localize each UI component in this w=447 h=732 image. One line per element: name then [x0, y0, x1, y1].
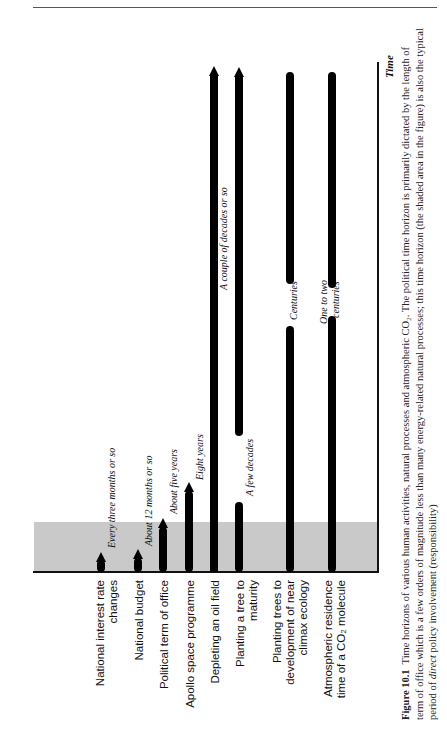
label-apollo: Apollo space programme: [184, 580, 197, 710]
annotation-apollo: Eight years: [194, 434, 205, 480]
label-interest-rate: National interest rate changes: [94, 580, 120, 710]
bar-political-term: [159, 527, 167, 572]
annotation-climax: Centuries: [288, 281, 299, 320]
shaded-political-horizon: [34, 522, 377, 572]
annotation-co2-line2: centuries: [330, 281, 341, 318]
annotation-oil: A couple of decades or so: [218, 187, 229, 290]
bar-co2-residence-upper: [328, 72, 336, 288]
label-co2-residence: Atmospheric residence time of a CO₂ mole…: [322, 580, 348, 710]
figure-number: Figure 10.1: [400, 669, 411, 720]
bar-tree-maturity-lower: [235, 502, 243, 572]
arrowhead-icon: [234, 67, 244, 77]
arrowhead-icon: [133, 549, 143, 559]
time-axis: [377, 62, 379, 573]
bar-co2-residence-lower: [328, 316, 336, 572]
arrowhead-icon: [209, 66, 219, 76]
page-top-rule: [33, 7, 437, 8]
bar-apollo: [185, 491, 193, 572]
annotation-co2-line1: One to two: [318, 280, 329, 324]
label-tree-maturity: Planting a tree to maturity: [234, 580, 260, 710]
bar-climax-ecology-lower: [286, 326, 294, 572]
arrowhead-icon: [96, 552, 106, 562]
label-oil-field: Depleting an oil field: [209, 580, 222, 710]
arrowhead-icon: [158, 518, 168, 528]
label-national-budget: National budget: [133, 580, 146, 710]
annotation-interest: Every three months or so: [106, 448, 117, 548]
category-axis: [33, 571, 379, 573]
annotation-political: About five years: [168, 449, 179, 514]
label-political-term: Political term of office: [158, 580, 171, 710]
time-axis-label: Time: [383, 55, 395, 78]
bar-climax-ecology-upper: [286, 72, 294, 284]
label-climax-ecology: Planting trees to development of near cl…: [271, 580, 310, 710]
bar-national-budget: [134, 558, 142, 572]
bar-tree-maturity-upper: [235, 76, 243, 436]
annotation-tree: A few decades: [244, 439, 255, 496]
figure-caption: Figure 10.1 Time horizons of various hum…: [399, 8, 440, 720]
bar-oil-field: [210, 75, 218, 572]
arrowhead-icon: [184, 482, 194, 492]
annotation-budget: About 12 months or so: [143, 455, 154, 546]
